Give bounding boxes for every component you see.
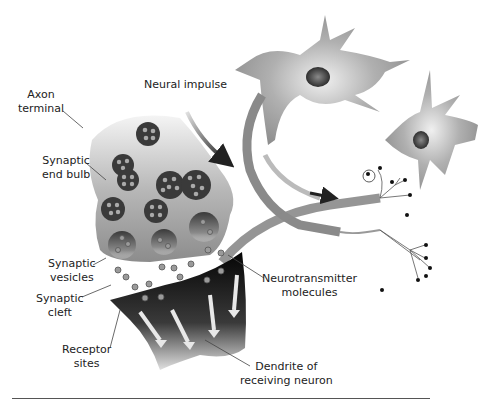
label-synaptic-vesicles: Synaptic vesicles: [48, 257, 96, 285]
receiving-neuron: [385, 70, 478, 190]
label-dendrite: Dendrite of receiving neuron: [240, 360, 333, 388]
highlight-circle: [363, 170, 375, 182]
label-neurotransmitter-molecules: Neurotransmitter molecules: [262, 272, 357, 300]
nucleus-icon: [413, 131, 429, 149]
label-neural-impulse: Neural impulse: [144, 78, 227, 92]
label-axon-terminal: Axon terminal: [18, 88, 64, 116]
caption-divider: [12, 398, 430, 399]
synapse-diagram: Axon terminal Neural impulse Synaptic en…: [0, 0, 488, 411]
label-synaptic-end-bulb: Synaptic end bulb: [42, 154, 90, 182]
label-synaptic-cleft: Synaptic cleft: [36, 292, 84, 320]
nucleus-icon: [306, 67, 330, 87]
label-receptor-sites: Receptor sites: [62, 343, 111, 371]
terminal-knobs: [366, 166, 432, 292]
sending-neuron: [222, 15, 410, 262]
